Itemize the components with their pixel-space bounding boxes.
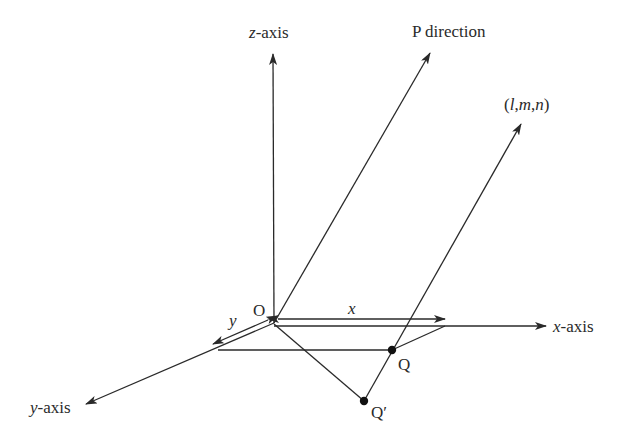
- point-q-prime-dot: [360, 397, 368, 405]
- y-length-label: y: [227, 311, 237, 330]
- y-axis-label: y-axis: [28, 398, 71, 417]
- z-axis-line: [273, 54, 274, 323]
- oq-prime-line: [274, 324, 364, 401]
- lmn-label: (l,m,n): [504, 95, 549, 114]
- y-dimension-arrow: [213, 320, 268, 344]
- lmn-direction-line: [364, 124, 521, 401]
- z-axis-label: z-axis: [248, 23, 289, 42]
- y-axis-line: [86, 323, 274, 404]
- point-q-dot: [388, 346, 396, 354]
- p-direction-line: [274, 53, 430, 323]
- origin-label: O: [253, 301, 265, 320]
- x-axis-label: x-axis: [552, 317, 594, 336]
- coordinate-diagram: z-axis P direction (l,m,n) x-axis y-axis…: [0, 0, 633, 440]
- point-q-prime-label: Q′: [371, 403, 387, 422]
- diagram-canvas: z-axis P direction (l,m,n) x-axis y-axis…: [0, 0, 633, 440]
- point-q-label: Q: [398, 355, 410, 374]
- p-direction-label: P direction: [412, 22, 486, 41]
- x-length-label: x: [347, 299, 356, 318]
